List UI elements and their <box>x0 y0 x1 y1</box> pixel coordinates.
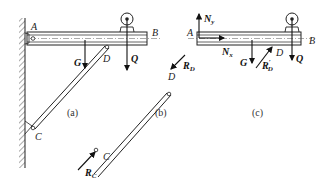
label-c: C <box>35 131 42 142</box>
label-rd: RD <box>182 60 195 73</box>
label-d-c: D <box>275 47 284 58</box>
label-q: Q <box>131 53 138 64</box>
label-b: B <box>152 27 158 38</box>
caption-c: (c) <box>252 107 263 119</box>
panel-c: A B D Ny Nx G R′D Q (c) <box>186 13 315 119</box>
panel-a: A B D C G Q (a) <box>19 13 160 168</box>
label-c-b: C <box>103 151 110 162</box>
label-d-b: D <box>167 71 176 82</box>
label-rd-prime: R′D <box>261 58 273 73</box>
label-ny: Ny <box>203 13 215 26</box>
beam-ab <box>25 32 160 45</box>
label-b-c: B <box>309 35 315 46</box>
label-q-c: Q <box>296 53 303 64</box>
panel-b: RD D C RC (b) <box>78 55 195 180</box>
label-nx: Nx <box>221 46 233 59</box>
label-a: A <box>30 21 38 32</box>
strut-cd <box>25 45 109 134</box>
label-g-c: G <box>240 57 248 68</box>
label-g: G <box>74 57 82 68</box>
label-d: D <box>102 53 111 64</box>
statics-diagram: A B D C G Q (a) RD D C RC (b) <box>0 0 327 190</box>
wall <box>19 18 25 168</box>
label-a-c: A <box>186 27 194 38</box>
caption-a: (a) <box>67 107 78 119</box>
label-rc: RC <box>84 167 97 180</box>
caption-b: (b) <box>155 107 167 119</box>
